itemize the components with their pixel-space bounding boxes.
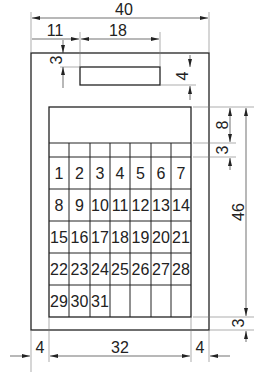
calendar-day: 29: [50, 293, 68, 310]
dim-header-height: 8: [214, 120, 231, 129]
calendar-day: 19: [132, 229, 150, 246]
dim-weekday-row-height: 3: [214, 145, 231, 154]
calendar-day: 7: [177, 165, 186, 182]
calendar-day: 23: [71, 261, 89, 278]
calendar-day: 12: [132, 197, 150, 214]
calendar-day: 1: [55, 165, 64, 182]
calendar-day: 8: [55, 197, 64, 214]
calendar-day: 15: [50, 229, 68, 246]
calendar-day: 2: [75, 165, 84, 182]
calendar-day: 22: [50, 261, 68, 278]
calendar-day: 10: [91, 197, 109, 214]
calendar-day: 30: [71, 293, 89, 310]
calendar-day: 28: [172, 261, 190, 278]
calendar-day: 31: [91, 293, 109, 310]
calendar-day: 9: [75, 197, 84, 214]
calendar-day: 17: [91, 229, 109, 246]
dim-display-offset-top: 3: [48, 55, 65, 64]
dim-calendar-width: 32: [111, 339, 129, 356]
calendar-day: 6: [157, 165, 166, 182]
calendar-day: 18: [111, 229, 129, 246]
calendar-day: 24: [91, 261, 109, 278]
dim-overall-width: 40: [115, 1, 133, 18]
calendar-day: 27: [152, 261, 170, 278]
dim-display-width: 18: [109, 22, 127, 39]
dim-display-height: 4: [174, 71, 191, 80]
calendar-day: 20: [152, 229, 170, 246]
calendar-day: 26: [132, 261, 150, 278]
dim-calendar-height: 46: [230, 203, 247, 221]
calendar-day: 5: [136, 165, 145, 182]
display-window: [80, 67, 160, 85]
calendar-day: 14: [172, 197, 190, 214]
calendar-day: 11: [112, 197, 129, 214]
calendar-day: 4: [116, 165, 125, 182]
outer-frame: [31, 53, 209, 330]
calendar-days: 1234567891011121314151617181920212223242…: [50, 165, 190, 310]
calendar-day: 16: [71, 229, 89, 246]
dim-left-margin: 4: [36, 339, 45, 356]
dim-display-offset-left: 11: [47, 22, 64, 39]
calendar-day: 21: [172, 229, 190, 246]
calendar-day: 25: [111, 261, 129, 278]
calendar-day: 3: [96, 165, 105, 182]
calendar-day: 13: [152, 197, 170, 214]
dim-right-margin: 4: [196, 339, 205, 356]
dim-bottom-margin: 3: [230, 318, 247, 327]
calendar-drawing: 1234567891011121314151617181920212223242…: [0, 0, 258, 385]
